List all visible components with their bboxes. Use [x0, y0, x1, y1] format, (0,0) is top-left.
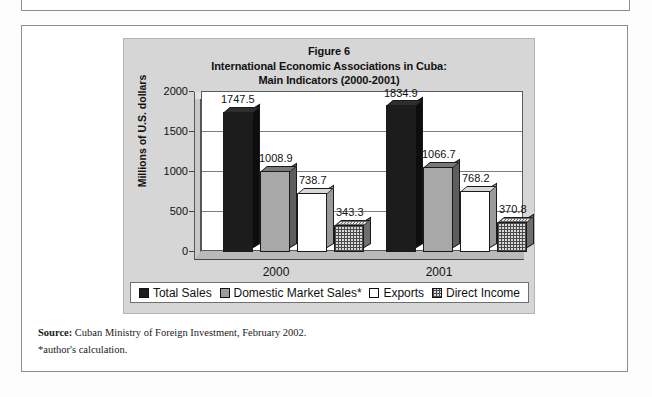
data-label-exports-2000: 738.7 — [299, 174, 327, 186]
chart-legend: Total Sales Domestic Market Sales* Expor… — [130, 282, 529, 303]
bar-face — [297, 193, 327, 252]
data-label-direct-income-2000: 343.3 — [336, 206, 364, 218]
legend-swatch-icon — [220, 288, 230, 298]
source-footnote: *author's calculation. — [38, 341, 306, 358]
legend-item-total-sales[interactable]: Total Sales — [139, 286, 212, 300]
bar-total-sales-2001[interactable] — [386, 105, 416, 252]
legend-label: Total Sales — [153, 286, 212, 300]
y-tick-label-1000: 1000 — [164, 165, 188, 177]
bar-side — [453, 159, 460, 248]
source-line: Source: Cuban Ministry of Foreign Invest… — [38, 324, 306, 341]
legend-swatch-icon — [432, 288, 442, 298]
data-label-domestic-market-sales-2000: 1008.9 — [259, 152, 293, 164]
legend-swatch-icon — [369, 288, 379, 298]
bar-direct-income-2001[interactable] — [497, 222, 527, 252]
source-label: Source: — [38, 327, 72, 338]
plot-wrapper: 2000 1500 1000 500 0 — [160, 87, 524, 287]
source-note: Source: Cuban Ministry of Foreign Invest… — [38, 324, 306, 358]
bar-exports-2001[interactable] — [460, 191, 490, 252]
chart-title: Figure 6 International Economic Associat… — [124, 44, 534, 88]
y-axis-title: Millions of U.S. dollars — [136, 51, 148, 211]
bar-direct-income-2000[interactable] — [334, 225, 364, 252]
legend-item-domestic-market-sales[interactable]: Domestic Market Sales* — [220, 286, 362, 300]
x-tick-label-2000: 2000 — [246, 265, 306, 279]
y-tick-label-1500: 1500 — [164, 125, 188, 137]
bar-domestic-market-sales-2000[interactable] — [260, 171, 290, 252]
source-text: Cuban Ministry of Foreign Investment, Fe… — [75, 327, 307, 338]
chart-title-line-1: Figure 6 — [124, 44, 534, 59]
y-axis-spine — [194, 99, 201, 259]
bar-domestic-market-sales-2001[interactable] — [423, 167, 453, 252]
data-label-exports-2001: 768.2 — [462, 172, 490, 184]
chart-floor-edge — [194, 259, 524, 260]
bar-side — [253, 104, 260, 248]
chart-panel: Figure 6 International Economic Associat… — [123, 38, 535, 314]
bars-layer: 1747.5 1008.9 738.7 343.3 1834.9 1066.7 … — [201, 91, 523, 252]
bar-total-sales-2000[interactable] — [223, 112, 253, 252]
bar-face — [223, 112, 253, 252]
document-page: Figure 6 International Economic Associat… — [0, 0, 652, 397]
figure-container: Figure 6 International Economic Associat… — [21, 25, 628, 372]
data-label-total-sales-2000: 1747.5 — [221, 93, 255, 105]
data-label-domestic-market-sales-2001: 1066.7 — [422, 148, 456, 160]
y-tick-label-500: 500 — [170, 205, 188, 217]
legend-swatch-icon — [139, 288, 149, 298]
y-axis-tick-labels: 2000 1500 1000 500 0 — [160, 87, 194, 259]
legend-label: Direct Income — [446, 286, 520, 300]
bar-face — [423, 167, 453, 252]
bar-face — [460, 191, 490, 252]
legend-item-exports[interactable]: Exports — [369, 286, 424, 300]
bar-side — [327, 185, 334, 248]
legend-label: Exports — [383, 286, 424, 300]
bar-side — [416, 97, 423, 248]
bar-face — [334, 225, 364, 252]
chart-title-line-2: International Economic Associations in C… — [124, 59, 534, 74]
bar-face — [260, 171, 290, 252]
y-tick-label-0: 0 — [182, 245, 188, 257]
legend-item-direct-income[interactable]: Direct Income — [432, 286, 520, 300]
bar-face — [386, 105, 416, 252]
data-label-direct-income-2001: 370.8 — [499, 203, 527, 215]
legend-label: Domestic Market Sales* — [234, 286, 362, 300]
data-label-total-sales-2001: 1834.9 — [384, 87, 418, 99]
bar-exports-2000[interactable] — [297, 193, 327, 252]
x-tick-label-2001: 2001 — [409, 265, 469, 279]
previous-content-box — [21, 0, 630, 11]
bar-face — [497, 222, 527, 252]
bar-side — [490, 183, 497, 248]
bar-side — [290, 163, 297, 248]
y-tick-label-2000: 2000 — [164, 85, 188, 97]
